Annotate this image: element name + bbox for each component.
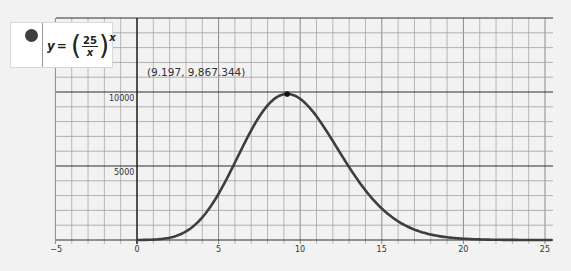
x-tick-label: 25 <box>540 245 550 254</box>
graph-page: −50510152025 500010000 (9.197, 9,867.344… <box>0 0 571 271</box>
formula-left-paren: ( <box>71 32 81 58</box>
function-expression[interactable]: y = ( 25 x ) x <box>47 28 116 64</box>
series-color-dot-icon[interactable] <box>25 29 38 42</box>
x-tick-label: −5 <box>50 245 62 254</box>
grid-lines <box>55 18 553 244</box>
maximum-point-label: (9.197, 9,867.344) <box>147 66 245 78</box>
formula-exponent: x <box>109 32 115 43</box>
formula-lhs: y <box>47 39 55 53</box>
function-legend[interactable]: y = ( 25 x ) x <box>10 22 113 68</box>
function-curve[interactable] <box>137 94 552 240</box>
formula-numerator: 25 <box>82 35 98 47</box>
x-tick-label: 15 <box>377 245 387 254</box>
legend-swatch-cell <box>11 23 43 67</box>
x-tick-label: 20 <box>458 245 468 254</box>
formula-equals: = <box>57 39 67 53</box>
x-tick-label: 10 <box>295 245 305 254</box>
y-tick-label: 10000 <box>109 94 134 103</box>
x-tick-label: 5 <box>216 245 221 254</box>
formula-denominator: x <box>87 47 93 58</box>
formula-right-paren: ) <box>99 32 109 58</box>
x-tick-label: 0 <box>134 245 139 254</box>
y-tick-label: 5000 <box>114 168 134 177</box>
maximum-point-marker[interactable] <box>284 91 290 97</box>
formula-fraction: 25 x <box>82 35 98 58</box>
